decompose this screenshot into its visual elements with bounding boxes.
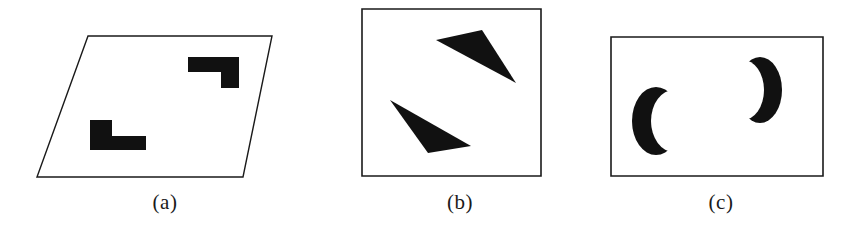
panel-c-caption: (c) bbox=[590, 192, 852, 213]
panel-b-caption: (b) bbox=[330, 192, 590, 213]
panel-c: (c) bbox=[590, 0, 852, 234]
figure-root: (a) (b) bbox=[0, 0, 852, 234]
crescent-right bbox=[590, 0, 852, 190]
panel-a-canvas bbox=[0, 0, 330, 190]
panel-c-canvas bbox=[590, 0, 852, 190]
panel-a: (a) bbox=[0, 0, 330, 234]
panel-b-frame-rectangle bbox=[362, 9, 541, 176]
panel-a-caption: (a) bbox=[0, 192, 330, 213]
panel-b-canvas bbox=[330, 0, 590, 190]
panel-b: (b) bbox=[330, 0, 590, 234]
